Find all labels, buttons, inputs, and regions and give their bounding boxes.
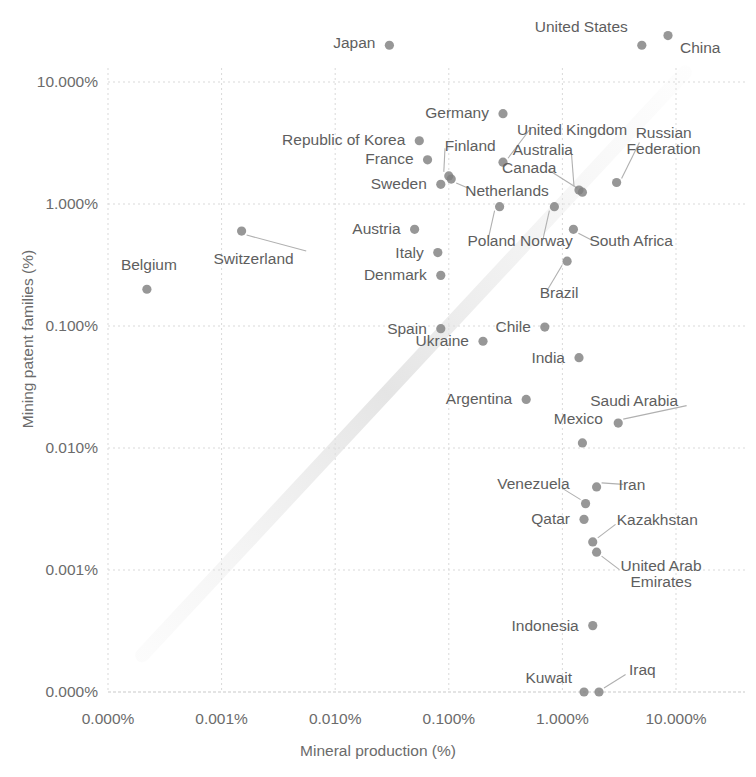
data-point-chile xyxy=(540,322,549,331)
data-point-venezuela xyxy=(581,499,590,508)
point-label-switzerland: Switzerland xyxy=(214,251,294,267)
x-axis-title: Mineral production (%) xyxy=(0,742,756,760)
data-point-ukraine xyxy=(478,337,487,346)
y-tick-label-2: 0.010% xyxy=(0,439,98,457)
point-label-republic-of-korea: Republic of Korea xyxy=(282,132,405,148)
data-point-india xyxy=(574,353,583,362)
point-label-line: United Arab xyxy=(621,558,702,574)
data-point-sweden xyxy=(436,180,445,189)
data-point-austria xyxy=(410,225,419,234)
data-point-kazakhstan xyxy=(588,537,597,546)
y-tick-label-3: 0.100% xyxy=(0,317,98,335)
data-point-germany xyxy=(498,109,507,118)
point-label-united-states: United States xyxy=(535,19,628,35)
x-tick-label-4: 1.000% xyxy=(536,710,589,728)
point-label-united-kingdom: United Kingdom xyxy=(517,122,627,138)
point-label-argentina: Argentina xyxy=(446,391,512,407)
diagonal-reference-band xyxy=(142,72,685,655)
data-point-italy xyxy=(433,248,442,257)
point-label-venezuela: Venezuela xyxy=(497,475,569,491)
point-label-chile: Chile xyxy=(495,319,530,335)
point-label-germany: Germany xyxy=(425,105,489,121)
data-point-russian-federation xyxy=(612,178,621,187)
point-label-russian-federation: RussianFederation xyxy=(627,124,701,157)
data-point-switzerland xyxy=(237,226,246,235)
y-tick-label-4: 1.000% xyxy=(0,195,98,213)
x-tick-label-5: 10.000% xyxy=(645,710,706,728)
point-label-denmark: Denmark xyxy=(364,267,427,283)
data-point-mexico xyxy=(578,438,587,447)
point-label-china: China xyxy=(680,39,721,55)
point-label-australia: Australia xyxy=(513,142,573,158)
data-point-china xyxy=(663,31,672,40)
point-label-canada: Canada xyxy=(502,160,556,176)
point-label-line: Emirates xyxy=(621,574,702,590)
x-tick-label-3: 0.100% xyxy=(423,710,476,728)
point-label-finland: Finland xyxy=(445,138,496,154)
data-point-kuwait xyxy=(579,687,588,696)
point-label-indonesia: Indonesia xyxy=(512,617,579,633)
data-point-japan xyxy=(385,41,394,50)
point-label-iraq: Iraq xyxy=(629,662,656,678)
point-label-japan: Japan xyxy=(333,35,375,51)
x-tick-label-1: 0.001% xyxy=(195,710,248,728)
point-label-saudi-arabia: Saudi Arabia xyxy=(590,393,678,409)
y-tick-label-1: 0.001% xyxy=(0,561,98,579)
point-label-south-africa: South Africa xyxy=(589,233,673,249)
data-point-argentina xyxy=(522,395,531,404)
point-label-line: Russian xyxy=(627,124,701,140)
point-label-italy: Italy xyxy=(395,244,423,260)
point-label-sweden: Sweden xyxy=(371,176,427,192)
point-label-united-arab-emirates: United ArabEmirates xyxy=(621,558,702,591)
point-label-line: Federation xyxy=(627,141,701,157)
data-point-united-arab-emirates xyxy=(592,548,601,557)
data-point-united-states xyxy=(637,41,646,50)
data-point-poland xyxy=(495,202,504,211)
data-point-republic-of-korea xyxy=(415,136,424,145)
x-tick-label-2: 0.010% xyxy=(309,710,362,728)
point-label-ukraine: Ukraine xyxy=(416,333,469,349)
point-label-india: India xyxy=(531,350,565,366)
point-label-france: France xyxy=(365,151,413,167)
data-point-brazil xyxy=(563,257,572,266)
point-label-qatar: Qatar xyxy=(531,511,570,527)
data-point-iraq xyxy=(594,687,603,696)
data-point-indonesia xyxy=(588,621,597,630)
data-point-netherlands xyxy=(447,174,456,183)
point-label-mexico: Mexico xyxy=(554,411,603,427)
y-axis-title: Mining patent families (%) xyxy=(19,219,37,459)
point-label-poland: Poland xyxy=(467,233,515,249)
data-point-belgium xyxy=(142,285,151,294)
x-tick-label-0: 0.000% xyxy=(82,710,135,728)
point-label-kazakhstan: Kazakhstan xyxy=(617,512,698,528)
point-label-kuwait: Kuwait xyxy=(525,670,572,686)
point-label-brazil: Brazil xyxy=(540,285,579,301)
point-label-norway: Norway xyxy=(520,233,573,249)
point-label-netherlands: Netherlands xyxy=(465,183,549,199)
scatter-chart: 0.000%0.001%0.010%0.100%1.000%10.000% 0.… xyxy=(0,0,756,777)
data-point-qatar xyxy=(579,515,588,524)
data-point-iran xyxy=(592,482,601,491)
y-tick-label-0: 0.000% xyxy=(0,683,98,701)
y-tick-label-5: 10.000% xyxy=(0,73,98,91)
point-label-austria: Austria xyxy=(352,221,400,237)
data-point-denmark xyxy=(436,271,445,280)
point-label-belgium: Belgium xyxy=(121,257,177,273)
data-point-france xyxy=(423,155,432,164)
data-point-canada xyxy=(578,188,587,197)
point-label-iran: Iran xyxy=(619,477,646,493)
data-point-norway xyxy=(550,202,559,211)
data-point-saudi-arabia xyxy=(614,418,623,427)
